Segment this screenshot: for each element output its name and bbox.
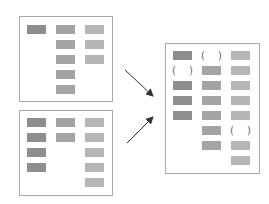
arrow-from-b-icon bbox=[127, 117, 153, 143]
arrows-layer bbox=[0, 0, 269, 204]
arrow-from-a-icon bbox=[125, 70, 153, 96]
